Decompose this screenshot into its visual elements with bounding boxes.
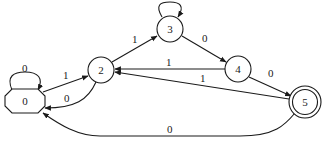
state-label: 5 — [302, 96, 308, 108]
edge-4-5: 0 — [249, 67, 291, 96]
edge-5-0: 0 — [43, 113, 295, 136]
edge-label: 1 — [63, 69, 69, 81]
edge-0-2: 1 — [43, 69, 88, 92]
state-diagram: 0 1 0 1 0 1 0 1 0 0 2 — [0, 0, 326, 141]
state-2: 2 — [88, 57, 114, 83]
edge-0-0: 0 — [10, 62, 40, 90]
state-3: 3 — [157, 16, 183, 42]
edge-label: 0 — [64, 92, 70, 104]
state-4: 4 — [225, 56, 251, 82]
edge-4-2: 1 — [115, 56, 225, 69]
edge-label: 0 — [22, 62, 28, 74]
edge-label: 1 — [132, 33, 138, 45]
edge-label: 0 — [167, 123, 173, 135]
edge-3-3 — [159, 2, 182, 17]
state-label: 0 — [22, 95, 28, 107]
edge-3-4: 0 — [182, 32, 226, 62]
state-label: 4 — [235, 63, 241, 75]
state-label: 2 — [98, 64, 104, 76]
edge-2-3: 1 — [112, 33, 157, 62]
edge-label: 0 — [202, 32, 208, 44]
edge-label: 0 — [268, 67, 274, 79]
state-label: 3 — [167, 23, 173, 35]
edge-label: 1 — [200, 72, 206, 84]
edge-5-2: 1 — [115, 72, 289, 99]
state-0: 0 — [5, 89, 45, 113]
edge-label: 1 — [166, 56, 172, 68]
state-5: 5 — [289, 86, 321, 118]
edge-2-0: 0 — [45, 82, 96, 108]
